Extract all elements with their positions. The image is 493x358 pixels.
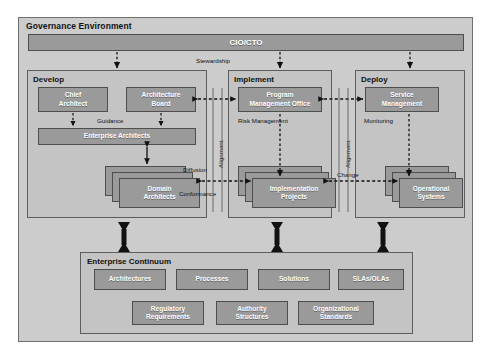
diagram-canvas: Governance Environment CIO/CTO Develop C… — [0, 0, 493, 358]
connector-overlay — [0, 0, 493, 358]
bigarrow-deploy-to-continuum — [377, 222, 389, 252]
bigarrow-implement-to-continuum — [271, 222, 283, 252]
bigarrow-develop-to-continuum — [118, 222, 130, 252]
